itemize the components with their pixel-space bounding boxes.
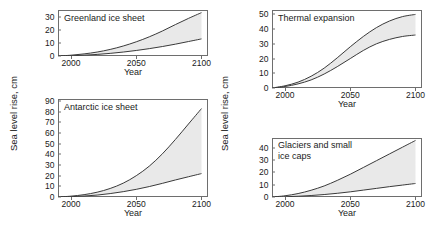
y-tick-label: 10 xyxy=(259,180,272,189)
y-tick-mark xyxy=(272,29,275,30)
x-tick-label: 2000 xyxy=(62,200,81,209)
y-tick-mark xyxy=(58,186,61,187)
y-tick-label: 0 xyxy=(50,193,58,202)
y-tick-label: 50 xyxy=(45,139,58,148)
x-tick-label: 2100 xyxy=(406,200,425,209)
y-tick-mark xyxy=(272,147,275,148)
y-tick-label: 60 xyxy=(45,129,58,138)
plot-area-antarctic xyxy=(58,99,208,197)
y-tick-mark xyxy=(272,58,275,59)
uncertainty-band xyxy=(58,109,201,197)
y-tick-mark xyxy=(58,197,61,198)
y-tick-label: 30 xyxy=(259,156,272,165)
y-tick-mark xyxy=(58,133,61,134)
y-tick-mark xyxy=(272,88,275,89)
x-axis-label-greenland: Year xyxy=(124,68,142,77)
uncertainty-band xyxy=(272,140,415,197)
y-tick-mark xyxy=(272,160,275,161)
x-tick-label: 2000 xyxy=(276,200,295,209)
y-tick-mark xyxy=(58,122,61,123)
x-tick-mark xyxy=(285,197,286,200)
x-tick-label: 2000 xyxy=(276,91,295,100)
y-tick-label: 20 xyxy=(45,25,58,34)
x-tick-mark xyxy=(136,56,137,59)
y-tick-label: 0 xyxy=(50,52,58,61)
x-tick-mark xyxy=(285,88,286,91)
y-tick-mark xyxy=(58,42,61,43)
x-tick-label: 2100 xyxy=(192,200,211,209)
panel-glaciers-small-ice-caps: Glaciers and small ice caps 010203040 20… xyxy=(272,138,422,197)
y-tick-mark xyxy=(58,165,61,166)
plot-area-greenland xyxy=(58,10,208,56)
y-tick-mark xyxy=(272,184,275,185)
x-tick-mark xyxy=(201,197,202,200)
y-tick-mark xyxy=(272,14,275,15)
panel-antarctic-ice-sheet: Antarctic ice sheet 0102030405060708090 … xyxy=(58,99,208,197)
y-tick-mark xyxy=(272,73,275,74)
y-tick-label: 0 xyxy=(264,193,272,202)
y-tick-label: 90 xyxy=(45,97,58,106)
x-tick-mark xyxy=(136,197,137,200)
uncertainty-band xyxy=(58,13,201,56)
y-tick-label: 80 xyxy=(45,108,58,117)
y-tick-mark xyxy=(58,175,61,176)
y-tick-label: 40 xyxy=(259,25,272,34)
x-tick-label: 2100 xyxy=(406,91,425,100)
x-axis-label-thermal: Year xyxy=(338,100,356,109)
y-tick-label: 30 xyxy=(45,12,58,21)
y-tick-label: 10 xyxy=(45,39,58,48)
x-axis-label-antarctic: Year xyxy=(124,209,142,218)
y-tick-label: 0 xyxy=(264,84,272,93)
figure-root: Sea level rise, cm Sea level rise, cm Gr… xyxy=(0,0,430,233)
y-tick-mark xyxy=(58,56,61,57)
y-tick-mark xyxy=(58,101,61,102)
x-tick-mark xyxy=(350,197,351,200)
x-tick-mark xyxy=(71,197,72,200)
y-tick-label: 30 xyxy=(45,161,58,170)
x-tick-mark xyxy=(71,56,72,59)
panel-greenland-ice-sheet: Greenland ice sheet 0102030 200020502100… xyxy=(58,10,208,56)
y-tick-mark xyxy=(58,111,61,112)
y-tick-label: 20 xyxy=(259,168,272,177)
y-tick-mark xyxy=(272,197,275,198)
y-tick-label: 10 xyxy=(259,69,272,78)
y-axis-label-right: Sea level rise, cm xyxy=(219,59,230,169)
y-tick-mark xyxy=(272,172,275,173)
plot-area-glaciers xyxy=(272,138,422,197)
x-tick-mark xyxy=(350,88,351,91)
x-tick-label: 2000 xyxy=(62,59,81,68)
y-tick-label: 50 xyxy=(259,10,272,19)
y-tick-label: 30 xyxy=(259,40,272,49)
x-tick-mark xyxy=(415,197,416,200)
panel-thermal-expansion: Thermal expansion 01020304050 2000205021… xyxy=(272,10,422,88)
y-tick-label: 20 xyxy=(45,171,58,180)
y-tick-mark xyxy=(272,43,275,44)
y-tick-label: 20 xyxy=(259,54,272,63)
plot-area-thermal xyxy=(272,10,422,88)
x-tick-mark xyxy=(201,56,202,59)
y-tick-mark xyxy=(58,154,61,155)
y-tick-mark xyxy=(58,16,61,17)
y-tick-mark xyxy=(58,29,61,30)
y-tick-label: 40 xyxy=(259,144,272,153)
y-axis-label-left: Sea level rise, cm xyxy=(8,59,19,169)
x-tick-mark xyxy=(415,88,416,91)
y-tick-label: 70 xyxy=(45,118,58,127)
y-tick-label: 40 xyxy=(45,150,58,159)
y-tick-label: 10 xyxy=(45,182,58,191)
y-tick-mark xyxy=(58,143,61,144)
uncertainty-band xyxy=(272,14,415,88)
x-tick-label: 2100 xyxy=(192,59,211,68)
x-axis-label-glaciers: Year xyxy=(338,209,356,218)
